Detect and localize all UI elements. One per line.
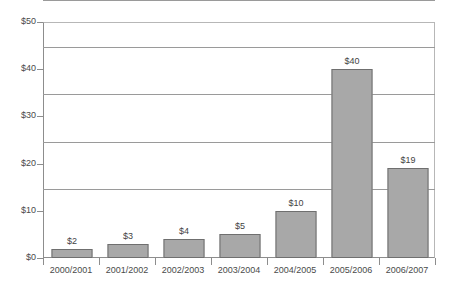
y-axis-label: $20: [0, 159, 36, 168]
bar-value-label: $4: [179, 227, 189, 236]
bar[interactable]: [220, 234, 261, 258]
bar-slot: $3: [100, 22, 156, 258]
y-axis-label: $30: [0, 111, 36, 120]
bars-group: $2$3$4$5$10$40$19: [44, 22, 434, 258]
y-axis-label: $10: [0, 206, 36, 215]
x-axis-category-label: 2001/2002: [99, 266, 155, 275]
x-axis-tick: [155, 258, 156, 265]
x-axis-tick: [435, 258, 436, 265]
bar-value-label: $40: [344, 57, 359, 66]
x-axis-tick: [43, 258, 44, 265]
bar[interactable]: [332, 69, 373, 258]
y-axis-label: $0: [0, 253, 36, 262]
y-axis-tick: [37, 69, 43, 70]
bar[interactable]: [276, 211, 317, 258]
x-axis-tick: [379, 258, 380, 265]
bar-value-label: $3: [123, 232, 133, 241]
bar-slot: $40: [324, 22, 380, 258]
x-axis-category-label: 2005/2006: [323, 266, 379, 275]
bar-value-label: $19: [400, 156, 415, 165]
bar-slot: $4: [156, 22, 212, 258]
y-axis-tick: [37, 116, 43, 117]
y-axis-tick: [37, 164, 43, 165]
y-axis-tick: [37, 22, 43, 23]
bar-value-label: $2: [67, 237, 77, 246]
bar-slot: $19: [380, 22, 436, 258]
bar-slot: $2: [44, 22, 100, 258]
x-axis-tick: [99, 258, 100, 265]
bar[interactable]: [52, 249, 93, 258]
x-axis-tick: [323, 258, 324, 265]
gridline: [43, 0, 435, 1]
x-axis-category-label: 2003/2004: [211, 266, 267, 275]
y-axis-label: $50: [0, 17, 36, 26]
x-axis-tick: [267, 258, 268, 265]
x-axis-category-label: 2004/2005: [267, 266, 323, 275]
y-axis-tick: [37, 211, 43, 212]
x-axis-category-label: 2000/2001: [43, 266, 99, 275]
bar[interactable]: [108, 244, 149, 258]
y-axis-label: $40: [0, 64, 36, 73]
bar-slot: $5: [212, 22, 268, 258]
x-axis-category-label: 2006/2007: [379, 266, 435, 275]
bar-slot: $10: [268, 22, 324, 258]
x-axis-category-label: 2002/2003: [155, 266, 211, 275]
x-axis-tick: [211, 258, 212, 265]
bar-value-label: $10: [288, 199, 303, 208]
bar-chart: $0$10$20$30$40$50 $2$3$4$5$10$40$19 2000…: [0, 0, 473, 292]
bar[interactable]: [164, 239, 205, 258]
bar-value-label: $5: [235, 222, 245, 231]
bar[interactable]: [388, 168, 429, 258]
